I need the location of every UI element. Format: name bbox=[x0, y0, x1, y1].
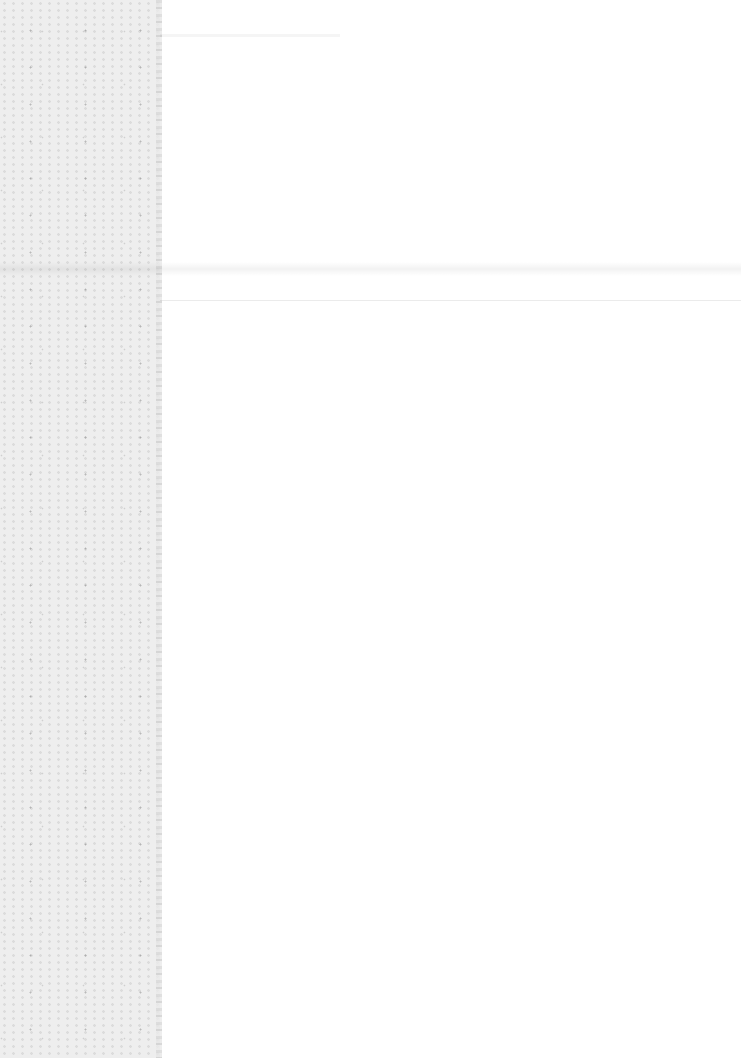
paper-margin-strip bbox=[0, 0, 160, 1058]
blank-page-body bbox=[160, 0, 741, 1058]
